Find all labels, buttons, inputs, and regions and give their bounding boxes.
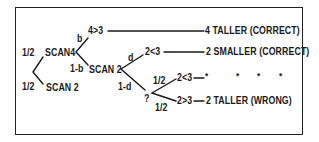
node-scan2-lower: SCAN 2: [46, 83, 79, 93]
comparison-2-lt-3-a: 2<3: [145, 47, 160, 57]
continuation-dot-2: *: [257, 71, 260, 81]
root-branch-lines: [33, 57, 43, 84]
outcome-4-taller-correct: 4 TALLER (CORRECT): [205, 26, 300, 36]
root-lower-prob: 1/2: [22, 82, 34, 92]
probability-tree-diagram: 1/2 1/2 SCAN4 SCAN 2 b 1-b 4>3 4 TALLER …: [0, 0, 319, 142]
outcome-star: *: [205, 71, 208, 81]
comparison-2-gt-3: 2>3: [177, 96, 192, 106]
continuation-dot-3: *: [279, 71, 282, 81]
node-scan2-mid: SCAN 2: [89, 65, 122, 75]
root-upper-prob: 1/2: [22, 48, 34, 58]
node-scan4: SCAN4: [45, 48, 75, 58]
guess-lower-prob: 1/2: [155, 103, 167, 113]
node-guess: ?: [144, 94, 149, 104]
guess-upper-prob: 1/2: [153, 76, 165, 86]
tree-branches: [0, 0, 319, 142]
outcome-2-smaller-correct: 2 SMALLER (CORRECT): [206, 47, 309, 57]
prob-1-minus-d: 1-d: [118, 82, 131, 92]
prob-b: b: [77, 34, 82, 44]
prob-d: d: [128, 53, 133, 63]
outcome-2-taller-wrong: 2 TALLER (WRONG): [206, 96, 292, 106]
continuation-dot-1: *: [236, 71, 239, 81]
prob-1-minus-b: 1-b: [70, 64, 83, 74]
comparison-2-lt-3-b: 2<3: [177, 73, 192, 83]
comparison-4-gt-3: 4>3: [88, 26, 103, 36]
